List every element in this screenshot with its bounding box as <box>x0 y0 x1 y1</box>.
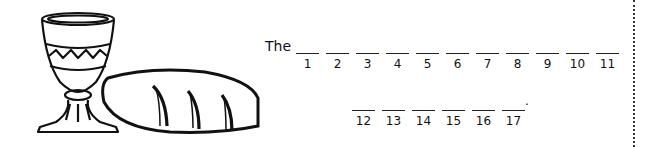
blank-underline <box>356 53 379 54</box>
blank-underline <box>352 110 375 111</box>
blank-number: 8 <box>506 57 529 71</box>
chalice-icon <box>38 13 118 132</box>
blank-underline <box>566 53 589 54</box>
letter-blank[interactable]: 1 <box>296 53 319 71</box>
blank-number: 11 <box>596 57 619 71</box>
blank-number: 6 <box>446 57 469 71</box>
letter-blank[interactable]: 14 <box>412 110 435 128</box>
blank-number: 4 <box>386 57 409 71</box>
letter-blank[interactable]: 12 <box>352 110 375 128</box>
blank-number: 2 <box>326 57 349 71</box>
blank-number: 10 <box>566 57 589 71</box>
letter-blank[interactable]: 3 <box>356 53 379 71</box>
blank-underline <box>476 53 499 54</box>
sentence-period: . <box>525 94 529 108</box>
letter-blank[interactable]: 13 <box>382 110 405 128</box>
blank-underline <box>596 53 619 54</box>
blank-underline <box>326 53 349 54</box>
blank-underline <box>536 53 559 54</box>
blank-underline <box>412 110 435 111</box>
letter-blank[interactable]: 17 <box>502 110 525 128</box>
letter-blank[interactable]: 11 <box>596 53 619 71</box>
blank-underline <box>442 110 465 111</box>
blank-underline <box>446 53 469 54</box>
blank-number: 16 <box>472 114 495 128</box>
blank-underline <box>506 53 529 54</box>
blank-number: 7 <box>476 57 499 71</box>
letter-blank[interactable]: 8 <box>506 53 529 71</box>
chalice-and-bread-illustration <box>0 0 260 147</box>
letter-blank[interactable]: 2 <box>326 53 349 71</box>
blank-underline <box>296 53 319 54</box>
blank-number: 9 <box>536 57 559 71</box>
blank-number: 1 <box>296 57 319 71</box>
letter-blank[interactable]: 7 <box>476 53 499 71</box>
letter-blank[interactable]: 4 <box>386 53 409 71</box>
blank-number: 5 <box>416 57 439 71</box>
blank-number: 14 <box>412 114 435 128</box>
letter-blank[interactable]: 15 <box>442 110 465 128</box>
blank-underline <box>472 110 495 111</box>
blank-underline <box>502 110 525 111</box>
letter-blank[interactable]: 6 <box>446 53 469 71</box>
letter-blank[interactable]: 9 <box>536 53 559 71</box>
blank-underline <box>386 53 409 54</box>
blank-underline <box>416 53 439 54</box>
blank-number: 3 <box>356 57 379 71</box>
blank-underline <box>382 110 405 111</box>
sentence-prefix: The <box>265 38 291 54</box>
blank-number: 17 <box>502 114 525 128</box>
letter-blank[interactable]: 10 <box>566 53 589 71</box>
blank-number: 13 <box>382 114 405 128</box>
letter-blank[interactable]: 16 <box>472 110 495 128</box>
dotted-cut-line <box>633 0 635 147</box>
bread-loaf-icon <box>103 70 258 132</box>
blank-number: 12 <box>352 114 375 128</box>
blank-number: 15 <box>442 114 465 128</box>
letter-blank[interactable]: 5 <box>416 53 439 71</box>
